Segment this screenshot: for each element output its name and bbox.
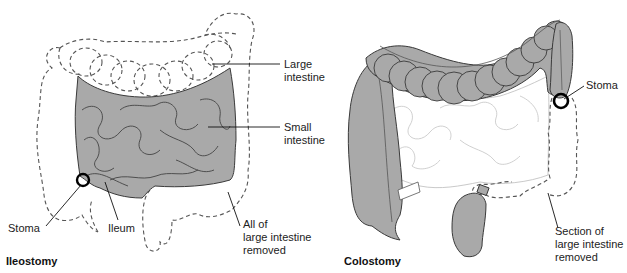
colostomy-illustration xyxy=(348,20,584,257)
label-ileum: Ileum xyxy=(108,222,135,235)
label-all-removed: All of large intestine removed xyxy=(243,218,312,257)
label-large-intestine: Large intestine xyxy=(284,58,325,84)
ileostomy-illustration xyxy=(37,13,280,251)
caption-colostomy: Colostomy xyxy=(344,255,401,267)
small-intestine xyxy=(75,68,236,198)
ostomy-diagram: Large intestine Small intestine Stoma Il… xyxy=(0,0,627,273)
rectum xyxy=(452,193,486,257)
label-stoma-ileostomy: Stoma xyxy=(8,222,40,235)
label-stoma-colostomy: Stoma xyxy=(586,79,618,92)
caption-ileostomy: Ileostomy xyxy=(6,255,57,267)
label-small-intestine: Small intestine xyxy=(284,121,325,147)
label-section-removed: Section of large intestine removed xyxy=(555,225,624,264)
